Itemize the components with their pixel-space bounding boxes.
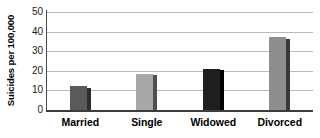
y-axis-tick-label: 30 [32,46,43,56]
bar-side-shading [286,39,290,110]
plot-area [47,12,313,110]
bar-group [70,12,91,110]
bar-top-bevel [87,86,91,88]
x-axis-tick-label: Divorced [247,116,314,128]
bar-top-bevel [153,74,157,76]
bar-group [136,12,157,110]
bar-group [269,12,290,110]
y-axis-tick-label: 20 [32,66,43,76]
y-axis-tick-label: 0 [37,105,43,115]
bar-face [70,86,87,110]
bar-side-shading [153,75,157,110]
y-axis-title-label: Suicides per 100,000 [6,14,17,105]
x-axis-tick-label: Single [114,116,181,128]
bar-side-shading [220,70,224,110]
y-axis-tick-label: 10 [32,85,43,95]
bar-group [203,12,224,110]
bar-side-shading [87,88,91,110]
bar[interactable] [203,69,224,110]
y-axis-title: Suicides per 100,000 [0,0,22,120]
bar-face [269,37,286,110]
x-axis-tick-labels: MarriedSingleWidowedDivorced [47,113,313,135]
bar-face [203,69,220,110]
bar-face [136,74,153,110]
x-axis-line [46,110,313,112]
bar-top-bevel [286,37,290,39]
y-axis-tick-labels: 01020304050 [22,0,46,138]
y-axis-tick-label: 40 [32,27,43,37]
bar-chart: Suicides per 100,000 01020304050 Married… [0,0,320,138]
bar[interactable] [70,86,91,110]
x-axis-tick-label: Married [47,116,114,128]
bar-top-bevel [220,69,224,71]
bar[interactable] [136,74,157,110]
x-axis-tick-label: Widowed [180,116,247,128]
y-axis-tick-label: 50 [32,7,43,17]
y-axis-line [46,10,47,111]
bar[interactable] [269,37,290,110]
